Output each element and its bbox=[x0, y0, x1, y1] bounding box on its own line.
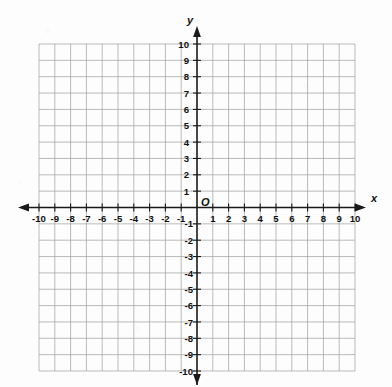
y-tick-label: 2 bbox=[184, 169, 189, 180]
y-tick-label: 7 bbox=[184, 88, 189, 99]
y-tick-label: 5 bbox=[184, 120, 190, 131]
y-tick-label: 6 bbox=[184, 104, 189, 115]
y-tick-label: -1 bbox=[184, 218, 193, 229]
x-tick-label: 3 bbox=[242, 213, 247, 224]
y-tick-label: -8 bbox=[184, 333, 193, 344]
y-tick-label: 9 bbox=[184, 55, 189, 66]
origin-label: O bbox=[201, 196, 210, 208]
y-tick-label: 3 bbox=[184, 153, 189, 164]
x-axis-left-arrow-icon bbox=[18, 204, 29, 212]
x-tick-label: -4 bbox=[130, 213, 139, 224]
y-axis-top-arrow-icon bbox=[193, 26, 201, 37]
x-tick-label: 10 bbox=[350, 213, 361, 224]
x-tick-label: -10 bbox=[32, 213, 46, 224]
y-tick-label: -5 bbox=[184, 284, 193, 295]
y-axis-bottom-arrow-icon bbox=[193, 374, 201, 385]
y-tick-label: -6 bbox=[184, 300, 193, 311]
x-tick-label: -5 bbox=[114, 213, 123, 224]
x-tick-label: 8 bbox=[321, 213, 327, 224]
y-tick-label: -4 bbox=[184, 268, 193, 279]
x-axis-tick-labels: -10 -9 -8 -7 -6 -5 -4 -3 -2 -1 1 2 3 4 5… bbox=[32, 213, 360, 224]
y-tick-label: 4 bbox=[184, 137, 190, 148]
y-tick-label: 8 bbox=[184, 71, 190, 82]
y-tick-label: 10 bbox=[178, 39, 189, 50]
x-tick-label: 9 bbox=[337, 213, 342, 224]
x-tick-label: 6 bbox=[289, 213, 294, 224]
y-tick-label: -3 bbox=[184, 251, 193, 262]
x-tick-label: -6 bbox=[98, 213, 107, 224]
x-tick-label: 2 bbox=[226, 213, 231, 224]
x-tick-label: -8 bbox=[66, 213, 75, 224]
y-tick-label: -9 bbox=[184, 349, 193, 360]
x-tick-label: -2 bbox=[161, 213, 170, 224]
y-axis-label: y bbox=[186, 14, 194, 26]
x-tick-label: 7 bbox=[305, 213, 310, 224]
y-tick-label: -10 bbox=[179, 366, 193, 377]
x-tick-label: -7 bbox=[82, 213, 91, 224]
x-tick-label: -3 bbox=[145, 213, 154, 224]
x-axis-label: x bbox=[370, 192, 378, 204]
x-axis-right-arrow-icon bbox=[355, 204, 366, 212]
y-tick-label: 1 bbox=[184, 186, 190, 197]
x-tick-label: -9 bbox=[51, 213, 60, 224]
y-axis bbox=[193, 26, 201, 385]
x-tick-label: 4 bbox=[258, 213, 264, 224]
x-tick-label: 1 bbox=[210, 213, 216, 224]
coordinate-plane: -10 -9 -8 -7 -6 -5 -4 -3 -2 -1 1 2 3 4 5… bbox=[0, 0, 392, 387]
x-tick-label: 5 bbox=[273, 213, 279, 224]
y-tick-label: -2 bbox=[184, 235, 193, 246]
y-tick-label: -7 bbox=[184, 317, 193, 328]
